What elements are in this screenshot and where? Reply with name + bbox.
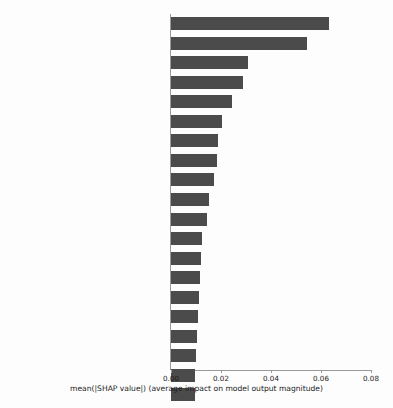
- x-tick-label: 0.02: [213, 374, 229, 383]
- bar: [171, 349, 196, 362]
- bar: [171, 193, 209, 206]
- bar: [171, 291, 199, 304]
- bar: [171, 37, 307, 50]
- x-tick-label: 0.06: [313, 374, 329, 383]
- x-tick-label: 0.08: [363, 374, 379, 383]
- bar: [171, 76, 243, 89]
- x-tick-label: 0.04: [263, 374, 279, 383]
- x-tick: [271, 370, 272, 373]
- x-axis-label: mean(|SHAP value|) (average impact on mo…: [0, 384, 393, 393]
- bar: [171, 252, 201, 265]
- bar: [171, 154, 217, 167]
- bar: [171, 310, 198, 323]
- bar: [171, 115, 222, 128]
- plot-area: SEND_SMSREAD_PHONE_STATERECEIVEREAD_EXTE…: [171, 14, 371, 370]
- x-tick: [171, 370, 172, 373]
- bar: [171, 173, 214, 186]
- x-tick: [371, 370, 372, 373]
- bar: [171, 271, 200, 284]
- bar: [171, 17, 329, 30]
- bar: [171, 56, 248, 69]
- shap-summary-bar-chart: SEND_SMSREAD_PHONE_STATERECEIVEREAD_EXTE…: [0, 0, 393, 408]
- bar: [171, 95, 232, 108]
- bar: [171, 213, 207, 226]
- bar: [171, 134, 218, 147]
- bar: [171, 330, 197, 343]
- bar: [171, 232, 202, 245]
- x-tick: [221, 370, 222, 373]
- x-tick: [321, 370, 322, 373]
- x-tick-label: 0.00: [163, 374, 179, 383]
